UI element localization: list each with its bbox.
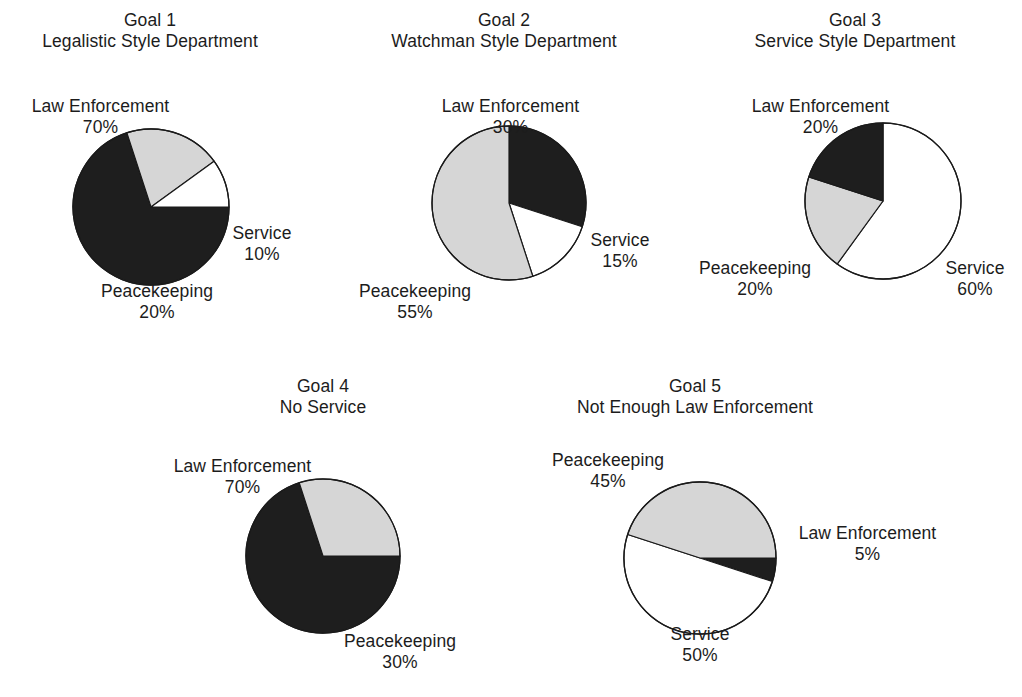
chart-title-line2: Watchman Style Department (354, 31, 654, 52)
chart-title-line1: Goal 3 (710, 10, 1000, 31)
label-peacekeeping-goal-4: Peacekeeping 30% (320, 631, 480, 673)
label-name: Peacekeeping (675, 258, 835, 279)
label-name: Service (580, 230, 660, 251)
label-value: 70% (150, 477, 335, 498)
label-value: 20% (728, 117, 913, 138)
chart-title-line2: Service Style Department (710, 31, 1000, 52)
label-name: Peacekeeping (82, 281, 232, 302)
label-name: Law Enforcement (8, 96, 193, 117)
chart-panel-goal-3: Goal 3 Service Style Department Law Enfo… (680, 0, 1022, 340)
label-value: 15% (580, 251, 660, 272)
label-law-enforcement-goal-1: Law Enforcement 70% (8, 96, 193, 138)
label-value: 30% (320, 652, 480, 673)
chart-panel-goal-5: Goal 5 Not Enough Law Enforcement Peacek… (510, 360, 1022, 697)
chart-title-goal-1: Goal 1 Legalistic Style Department (0, 10, 300, 52)
label-service-goal-3: Service 60% (935, 258, 1015, 300)
label-value: 70% (8, 117, 193, 138)
chart-title-line1: Goal 4 (173, 376, 473, 397)
chart-panel-goal-1: Goal 1 Legalistic Style Department Law E… (0, 0, 340, 340)
label-value: 30% (418, 117, 603, 138)
label-value: 55% (335, 302, 495, 323)
label-service-goal-2: Service 15% (580, 230, 660, 272)
chart-title-line1: Goal 2 (354, 10, 654, 31)
label-name: Service (935, 258, 1015, 279)
label-name: Peacekeeping (528, 450, 688, 471)
chart-title-line1: Goal 1 (0, 10, 300, 31)
chart-panel-goal-4: Goal 4 No Service Law Enforcement 70% Pe… (170, 360, 510, 697)
label-name: Law Enforcement (728, 96, 913, 117)
chart-title-line1: Goal 5 (535, 376, 855, 397)
label-law-enforcement-goal-5: Law Enforcement 5% (775, 523, 960, 565)
chart-title-line2: No Service (173, 397, 473, 418)
label-service-goal-1: Service 10% (222, 223, 302, 265)
label-value: 20% (675, 279, 835, 300)
chart-panel-goal-2: Goal 2 Watchman Style Department Law Enf… (340, 0, 680, 340)
label-value: 50% (620, 645, 780, 666)
label-law-enforcement-goal-3: Law Enforcement 20% (728, 96, 913, 138)
label-value: 10% (222, 244, 302, 265)
chart-title-line2: Not Enough Law Enforcement (535, 397, 855, 418)
label-service-goal-5: Service 50% (620, 624, 780, 666)
label-peacekeeping-goal-3: Peacekeeping 20% (675, 258, 835, 300)
label-peacekeeping-goal-5: Peacekeeping 45% (528, 450, 688, 492)
label-law-enforcement-goal-4: Law Enforcement 70% (150, 456, 335, 498)
chart-title-goal-4: Goal 4 No Service (173, 376, 473, 418)
label-peacekeeping-goal-2: Peacekeeping 55% (335, 281, 495, 323)
label-name: Peacekeeping (320, 631, 480, 652)
label-law-enforcement-goal-2: Law Enforcement 30% (418, 96, 603, 138)
chart-title-goal-2: Goal 2 Watchman Style Department (354, 10, 654, 52)
pie-goal-1 (71, 127, 231, 287)
chart-title-line2: Legalistic Style Department (0, 31, 300, 52)
label-name: Law Enforcement (775, 523, 960, 544)
label-value: 60% (935, 279, 1015, 300)
pie-goal-2 (430, 124, 588, 282)
label-peacekeeping-goal-1: Peacekeeping 20% (82, 281, 232, 323)
label-value: 5% (775, 544, 960, 565)
pie-chart-figure: Goal 1 Legalistic Style Department Law E… (0, 0, 1022, 697)
pie-goal-3 (803, 121, 963, 281)
label-name: Peacekeeping (335, 281, 495, 302)
label-name: Law Enforcement (150, 456, 335, 477)
label-value: 45% (528, 471, 688, 492)
chart-title-goal-3: Goal 3 Service Style Department (710, 10, 1000, 52)
pie-goal-5 (622, 480, 778, 636)
label-name: Service (620, 624, 780, 645)
label-value: 20% (82, 302, 232, 323)
label-name: Law Enforcement (418, 96, 603, 117)
pie-goal-4 (244, 477, 402, 635)
label-name: Service (222, 223, 302, 244)
chart-title-goal-5: Goal 5 Not Enough Law Enforcement (535, 376, 855, 418)
